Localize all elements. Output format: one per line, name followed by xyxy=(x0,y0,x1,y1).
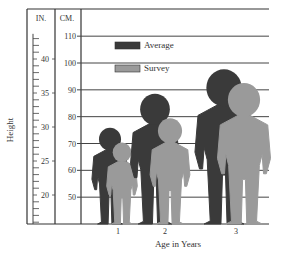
figure-head xyxy=(158,118,182,143)
in-axis-header: IN. xyxy=(36,14,46,23)
x-tick-label: 2 xyxy=(163,227,167,236)
legend-swatch xyxy=(115,42,140,49)
legend: AverageSurvey xyxy=(115,40,174,73)
x-tick-label: 3 xyxy=(234,227,238,236)
cm-tick-label: 60 xyxy=(68,166,76,175)
cm-tick-label: 50 xyxy=(68,193,76,202)
x-axis: 123 xyxy=(116,227,238,236)
cm-tick-label: 80 xyxy=(68,113,76,122)
cm-tick-label: 90 xyxy=(68,86,76,95)
legend-swatch xyxy=(115,65,140,72)
inch-tick-label: 40 xyxy=(41,55,49,64)
cm-axis: 5060708090100110 xyxy=(64,32,76,202)
inch-tick-label: 20 xyxy=(41,191,49,200)
inch-tick-label: 25 xyxy=(41,157,49,166)
cm-tick-label: 100 xyxy=(64,59,76,68)
height-chart: 5060708090100110 2025303540 AverageSurve… xyxy=(0,0,284,256)
legend-label: Average xyxy=(144,40,174,50)
figure-head xyxy=(228,83,260,117)
x-tick-label: 1 xyxy=(116,227,120,236)
x-axis-label: Age in Years xyxy=(155,239,202,249)
figure-head xyxy=(113,143,132,162)
inch-axis: 2025303540 xyxy=(33,34,55,224)
inch-tick-label: 35 xyxy=(41,89,49,98)
figures xyxy=(92,69,271,224)
cm-axis-header: CM. xyxy=(60,14,74,23)
y-axis-label: Height xyxy=(5,117,15,142)
cm-tick-label: 110 xyxy=(64,32,76,41)
cm-tick-label: 70 xyxy=(68,140,76,149)
inch-tick-label: 30 xyxy=(41,123,49,132)
legend-label: Survey xyxy=(144,63,170,73)
